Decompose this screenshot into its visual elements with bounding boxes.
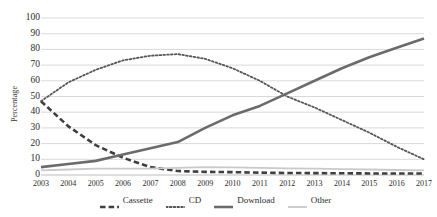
x-axis-tick-label: 2017: [411, 180, 437, 188]
legend-item-download[interactable]: Download: [214, 196, 275, 205]
gridlines: [41, 18, 424, 175]
chart-legend: CassetteCDDownloadOther: [0, 196, 431, 205]
x-axis-tick-label: 2010: [220, 180, 246, 188]
legend-label: CD: [189, 196, 202, 205]
legend-swatch-other: [288, 197, 307, 205]
x-axis-tick-label: 2015: [356, 180, 382, 188]
x-axis-tick-label: 2004: [55, 180, 81, 188]
x-axis-tick-label: 2008: [165, 180, 191, 188]
legend-label: Download: [237, 196, 275, 205]
x-axis-tick-label: 2006: [110, 180, 136, 188]
x-axis-tick-label: 2007: [137, 180, 163, 188]
series-line-other: [41, 167, 424, 170]
x-axis-tick-label: 2013: [302, 180, 328, 188]
x-axis-tick-label: 2012: [274, 180, 300, 188]
x-axis-tick-label: 2011: [247, 180, 273, 188]
x-axis-tick-label: 2016: [384, 180, 410, 188]
series-lines: [41, 38, 424, 173]
x-axis-tick-label: 2009: [192, 180, 218, 188]
legend-swatch-cassette: [100, 197, 119, 205]
legend-swatch-cd: [166, 197, 185, 205]
x-axis-tick-label: 2014: [329, 180, 355, 188]
x-axis-tick-label: 2003: [28, 180, 54, 188]
legend-label: Other: [311, 196, 332, 205]
legend-swatch-download: [214, 197, 233, 205]
legend-item-cassette[interactable]: Cassette: [100, 196, 153, 205]
legend-item-cd[interactable]: CD: [166, 196, 202, 205]
x-axis-tick-label: 2005: [83, 180, 109, 188]
legend-label: Cassette: [123, 196, 153, 205]
legend-item-other[interactable]: Other: [288, 196, 332, 205]
